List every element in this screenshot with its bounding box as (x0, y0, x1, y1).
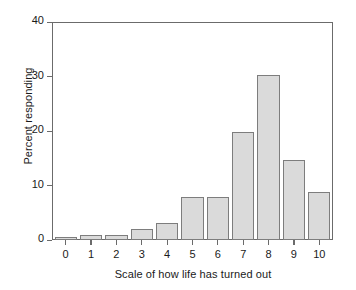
bar-slot (104, 23, 129, 240)
y-axis-tick: 0 (0, 240, 52, 241)
x-tick-mark (192, 240, 193, 245)
bar (207, 197, 229, 240)
bar-slot (53, 23, 78, 240)
x-tick-mark (293, 240, 294, 245)
x-axis-tick: 9 (281, 240, 306, 266)
x-tick-mark (116, 240, 117, 245)
x-tick-label: 9 (291, 248, 297, 260)
x-tick-label: 10 (313, 248, 325, 260)
bar-slot (129, 23, 154, 240)
x-tick-label: 7 (240, 248, 246, 260)
x-tick-mark (217, 240, 218, 245)
bar-slot (154, 23, 179, 240)
x-axis-tick: 3 (129, 240, 154, 266)
y-tick-label: 0 (38, 232, 44, 244)
x-axis-tick: 2 (104, 240, 129, 266)
x-tick-label: 1 (88, 248, 94, 260)
y-tick-mark (47, 131, 52, 132)
x-axis-tick: 4 (154, 240, 179, 266)
y-tick-mark (47, 240, 52, 241)
y-tick-mark (47, 76, 52, 77)
x-tick-mark (243, 240, 244, 245)
x-tick-label: 2 (113, 248, 119, 260)
x-tick-label: 3 (139, 248, 145, 260)
x-axis-tick: 5 (180, 240, 205, 266)
y-axis-tick: 40 (0, 22, 52, 23)
x-axis-tick: 0 (53, 240, 78, 266)
x-tick-mark (268, 240, 269, 245)
bar (131, 229, 153, 240)
bar-chart: 010203040 012345678910 Percent respondin… (0, 0, 356, 290)
bar-slot (78, 23, 103, 240)
x-axis-tick: 7 (231, 240, 256, 266)
bar (283, 160, 305, 240)
x-tick-mark (167, 240, 168, 245)
x-tick-label: 5 (189, 248, 195, 260)
bar (181, 197, 203, 240)
y-tick-label: 40 (32, 14, 44, 26)
x-tick-mark (141, 240, 142, 245)
x-tick-mark (65, 240, 66, 245)
bar-slot (256, 23, 281, 240)
x-tick-mark (90, 240, 91, 245)
x-axis-tick: 1 (78, 240, 103, 266)
bar-slot (231, 23, 256, 240)
y-tick-mark (47, 185, 52, 186)
y-axis-title: Percent responding (22, 26, 34, 206)
bar-slot (180, 23, 205, 240)
x-tick-label: 0 (63, 248, 69, 260)
x-tick-label: 6 (215, 248, 221, 260)
y-tick-mark (47, 22, 52, 23)
x-tick-mark (319, 240, 320, 245)
x-axis-ticks: 012345678910 (53, 240, 332, 266)
x-tick-label: 8 (265, 248, 271, 260)
bar (232, 132, 254, 241)
bar (308, 192, 330, 240)
x-axis-tick: 8 (256, 240, 281, 266)
x-axis-tick: 10 (307, 240, 332, 266)
x-tick-label: 4 (164, 248, 170, 260)
bar-slot (281, 23, 306, 240)
bar (257, 75, 279, 240)
x-axis-tick: 6 (205, 240, 230, 266)
bar-slot (307, 23, 332, 240)
bar (156, 223, 178, 240)
bar-slot (205, 23, 230, 240)
bars-area (53, 23, 332, 240)
x-axis-title: Scale of how life has turned out (52, 268, 334, 280)
